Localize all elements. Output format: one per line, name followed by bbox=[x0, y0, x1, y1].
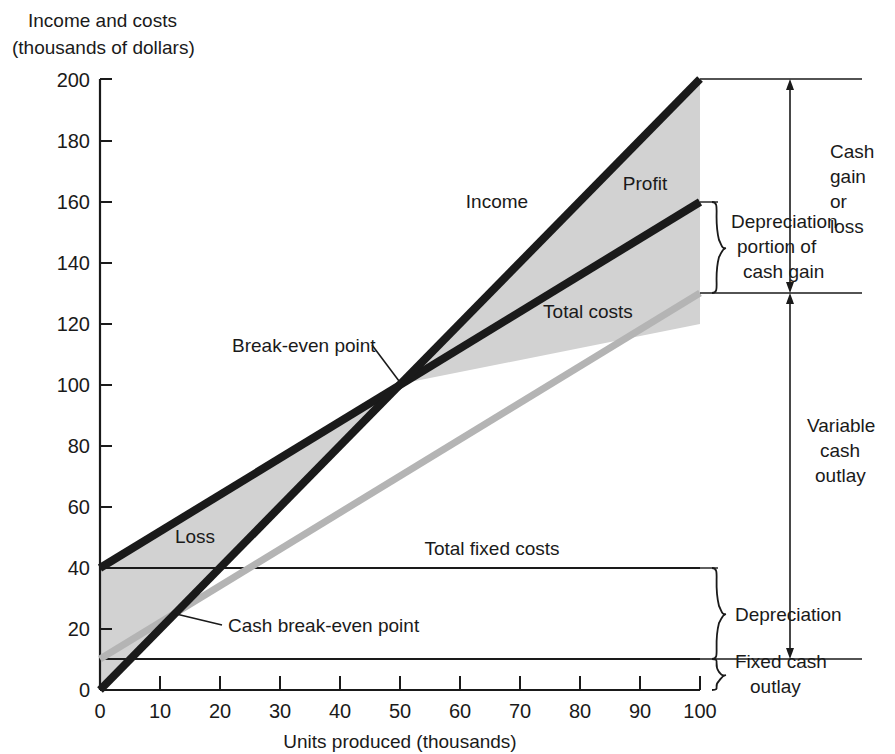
x-tick-label-50: 50 bbox=[389, 700, 411, 722]
breakeven-chart-figure: 0 20 40 60 80 100 120 140 160 180 200 bbox=[0, 0, 895, 754]
cash-gain-line-1: Cash bbox=[830, 141, 874, 162]
depreciation-label: Depreciation bbox=[735, 604, 842, 625]
variable-cash-arrow-head-top bbox=[786, 293, 794, 304]
x-tick-label-100: 100 bbox=[683, 700, 716, 722]
label-income: Income bbox=[466, 191, 528, 212]
y-tick-label-160: 160 bbox=[57, 191, 90, 213]
variable-cash-line-2: cash bbox=[820, 440, 860, 461]
y-axis-title-line-1: Income and costs bbox=[28, 10, 177, 31]
x-tick-label-30: 30 bbox=[269, 700, 291, 722]
cash-gain-line-3: or bbox=[830, 191, 848, 212]
cash-break-even-point-callout: Cash break-even point bbox=[172, 613, 420, 636]
variable-cash-line-1: Variable bbox=[807, 415, 875, 436]
fixed-cash-outlay-brace bbox=[712, 659, 726, 690]
chart-canvas: 0 20 40 60 80 100 120 140 160 180 200 bbox=[0, 0, 895, 754]
y-tick-label-0: 0 bbox=[79, 679, 90, 701]
x-axis-ticks bbox=[160, 676, 700, 690]
x-tick-label-10: 10 bbox=[149, 700, 171, 722]
x-axis-tick-labels: 0 10 20 30 40 50 60 70 80 90 100 bbox=[94, 700, 716, 722]
label-profit: Profit bbox=[623, 173, 668, 194]
y-tick-label-60: 60 bbox=[68, 496, 90, 518]
y-tick-label-180: 180 bbox=[57, 130, 90, 152]
label-total-costs: Total costs bbox=[543, 301, 633, 322]
depreciation-portion-label: Depreciation portion of cash gain bbox=[731, 211, 838, 282]
y-tick-label-40: 40 bbox=[68, 557, 90, 579]
label-break-even-point: Break-even point bbox=[232, 335, 376, 356]
series-income-line bbox=[100, 79, 700, 690]
label-cash-break-even-point: Cash break-even point bbox=[228, 615, 420, 636]
depreciation-portion-line-2: portion of bbox=[737, 236, 817, 257]
cash-break-even-leader-line bbox=[172, 613, 222, 625]
x-tick-label-0: 0 bbox=[94, 700, 105, 722]
cash-gain-line-2: gain bbox=[830, 166, 866, 187]
depreciation-portion-line-1: Depreciation bbox=[731, 211, 838, 232]
y-tick-label-20: 20 bbox=[68, 618, 90, 640]
fixed-cash-line-2: outlay bbox=[750, 676, 801, 697]
y-tick-label-120: 120 bbox=[57, 313, 90, 335]
fixed-cash-line-1: Fixed cash bbox=[735, 651, 827, 672]
y-tick-label-200: 200 bbox=[57, 69, 90, 91]
x-tick-label-70: 70 bbox=[509, 700, 531, 722]
y-tick-label-100: 100 bbox=[57, 374, 90, 396]
x-tick-label-60: 60 bbox=[449, 700, 471, 722]
variable-cash-line-3: outlay bbox=[815, 465, 866, 486]
y-tick-label-140: 140 bbox=[57, 252, 90, 274]
variable-cash-outlay-label: Variable cash outlay bbox=[807, 415, 875, 486]
label-loss: Loss bbox=[175, 526, 215, 547]
x-tick-label-40: 40 bbox=[329, 700, 351, 722]
break-even-point-callout: Break-even point bbox=[232, 335, 399, 381]
fixed-cash-outlay-label: Fixed cash outlay bbox=[735, 651, 827, 697]
data-series bbox=[100, 79, 700, 690]
x-tick-label-90: 90 bbox=[629, 700, 651, 722]
cash-gain-arrow-head-top bbox=[786, 79, 794, 90]
x-tick-label-80: 80 bbox=[569, 700, 591, 722]
series-variable-cash-outlay-line bbox=[100, 293, 700, 659]
cash-gain-arrow-head-bottom bbox=[786, 282, 794, 293]
y-tick-label-80: 80 bbox=[68, 435, 90, 457]
depreciation-portion-brace bbox=[712, 202, 726, 293]
label-total-fixed-costs: Total fixed costs bbox=[424, 538, 559, 559]
y-axis-title-line-2: (thousands of dollars) bbox=[12, 37, 195, 58]
break-even-leader-line bbox=[372, 345, 399, 381]
x-axis-title: Units produced (thousands) bbox=[283, 731, 516, 752]
right-annotations: Cash gain or loss Depreciation portion o… bbox=[700, 79, 875, 697]
depreciation-brace bbox=[712, 568, 726, 659]
depreciation-portion-line-3: cash gain bbox=[743, 261, 824, 282]
x-tick-label-20: 20 bbox=[209, 700, 231, 722]
y-axis-tick-labels: 0 20 40 60 80 100 120 140 160 180 200 bbox=[57, 69, 90, 701]
